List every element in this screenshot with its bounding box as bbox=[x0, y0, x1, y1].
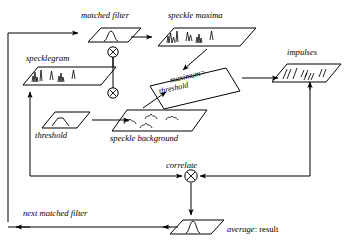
label-average: average bbox=[227, 224, 255, 234]
node-correlate bbox=[185, 170, 197, 182]
label-correlate: correlate bbox=[166, 160, 197, 170]
label-speckle-maxima: speckle maxima bbox=[168, 10, 223, 20]
node-threshold bbox=[42, 112, 90, 128]
label-specklegram: specklegram bbox=[26, 53, 69, 63]
label-speckle-background: speckle background bbox=[110, 133, 178, 143]
node-specklegram bbox=[23, 67, 116, 85]
operator-mult-top bbox=[108, 47, 118, 57]
operator-mult-mid bbox=[108, 88, 118, 98]
label-matched-filter: matched filter bbox=[81, 10, 129, 20]
node-speckle-maxima bbox=[158, 28, 256, 46]
node-matched-filter bbox=[88, 28, 141, 42]
node-impulses bbox=[272, 64, 341, 82]
label-next-matched-filter: next matched filter bbox=[23, 208, 87, 218]
label-impulses: impulses bbox=[287, 47, 317, 57]
diagram-svg bbox=[0, 0, 344, 242]
node-average-result bbox=[170, 220, 224, 234]
label-threshold: threshold bbox=[35, 130, 67, 140]
label-result-suffix: : result bbox=[255, 224, 279, 234]
label-average-result: average: result bbox=[227, 224, 278, 234]
diagram-canvas: matched filter speckle maxima specklegra… bbox=[0, 0, 344, 242]
